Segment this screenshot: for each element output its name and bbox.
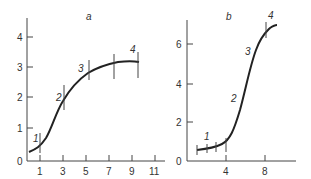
x-tick: 3: [60, 166, 66, 177]
figure: a 4 3 2 1 0 1 3 5 7 9 11 1 2 3 4 b: [0, 0, 311, 179]
x-tick: 9: [129, 166, 135, 177]
y-tick: 4: [17, 32, 23, 43]
marker-2: 2: [55, 92, 62, 103]
y-tick: 2: [17, 92, 23, 103]
x-tick: 5: [83, 166, 89, 177]
y-tick: 3: [17, 62, 23, 73]
y-tick: 6: [176, 39, 182, 50]
y-tick: 0: [17, 156, 23, 167]
panel-b: b 6 4 2 0 4 8 1 2 3 4: [176, 10, 296, 177]
y-tick: 4: [176, 79, 182, 90]
y-tick: 1: [17, 123, 23, 134]
marker-4: 4: [130, 44, 136, 55]
panel-a-title: a: [86, 11, 92, 22]
x-tick: 1: [37, 166, 43, 177]
x-tick: 7: [106, 166, 112, 177]
x-tick: 11: [149, 166, 160, 177]
marker-3: 3: [78, 63, 84, 74]
marker-1: 1: [33, 133, 39, 144]
y-tick: 0: [176, 156, 182, 167]
x-tick: 8: [262, 166, 268, 177]
panel-b-title: b: [226, 11, 232, 22]
marker-4: 4: [268, 10, 274, 21]
x-tick: 4: [223, 166, 229, 177]
y-tick: 2: [176, 117, 182, 128]
curve-a: [29, 61, 139, 152]
panel-a: a 4 3 2 1 0 1 3 5 7 9 11 1 2 3 4: [17, 11, 165, 177]
marker-1: 1: [204, 131, 210, 142]
marker-3: 3: [245, 46, 251, 57]
marker-2: 2: [230, 93, 237, 104]
